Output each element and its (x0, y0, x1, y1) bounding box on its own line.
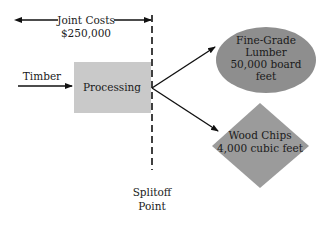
lumber-qty-line1: 50,000 board (230, 58, 301, 70)
timber-label: Timber (23, 70, 62, 82)
arrow-to-lumber-icon (152, 47, 215, 88)
joint-cost-diagram: Joint Costs $250,000 Timber Processing F… (0, 0, 324, 226)
arrow-to-woodchips-icon (152, 88, 218, 131)
lumber-name-line1: Fine-Grade (236, 34, 296, 46)
joint-costs-span: Joint Costs $250,000 (21, 14, 151, 39)
joint-costs-label: Joint Costs (56, 14, 115, 26)
processing-label: Processing (83, 81, 141, 93)
woodchips-qty: 4,000 cubic feet (217, 142, 304, 154)
lumber-name-line2: Lumber (245, 46, 288, 58)
joint-costs-amount: $250,000 (61, 27, 111, 39)
splitoff-label-line2: Point (138, 200, 166, 212)
woodchips-name: Wood Chips (228, 129, 291, 141)
lumber-qty-line2: feet (256, 70, 277, 82)
splitoff-label-line1: Splitoff (133, 186, 173, 198)
